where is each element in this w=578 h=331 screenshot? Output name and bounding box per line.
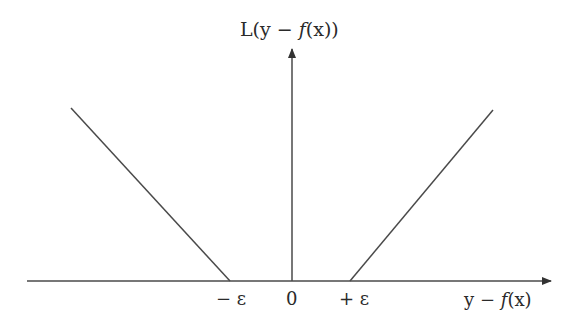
left-loss-line [71,108,230,281]
tick-neg-epsilon: − ε [216,288,246,309]
loss-diagram: L(y − f(x)) y − f(x) − ε 0 + ε [0,0,578,331]
tick-zero: 0 [286,288,297,309]
right-loss-line [350,110,493,281]
y-axis-label: L(y − f(x)) [240,18,339,40]
tick-pos-epsilon: + ε [339,288,369,309]
x-axis-label: y − f(x) [463,289,532,310]
